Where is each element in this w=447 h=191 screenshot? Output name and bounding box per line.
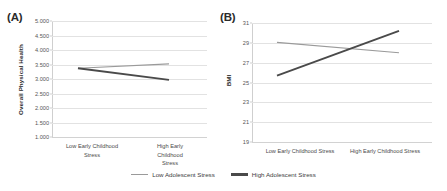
- y-tick-label: 4.000: [35, 47, 49, 53]
- gridline: [52, 137, 207, 138]
- panel-a-series-lines: [52, 21, 207, 137]
- series-line: [78, 68, 169, 80]
- legend-line-icon-high: [231, 173, 248, 175]
- panel-b-y-axis-title: BMI: [225, 66, 232, 96]
- y-tick-label: 1.000: [35, 134, 49, 140]
- y-tick-label: 1.500: [35, 120, 49, 126]
- panel-a-y-axis-title: Overall Physical Health: [17, 39, 24, 121]
- y-tick-label: 25: [243, 80, 249, 86]
- y-tick-label: 21: [243, 119, 249, 125]
- y-tick-label: 29: [243, 40, 249, 46]
- y-tick-label: 5.000: [35, 18, 49, 24]
- panel-a: (A) Overall Physical Health 5.0004.5004.…: [0, 0, 215, 168]
- interaction-figure: (A) Overall Physical Health 5.0004.5004.…: [0, 0, 447, 191]
- legend: Low Adolescent Stress High Adolescent St…: [0, 171, 447, 178]
- x-tick-label: High Early Childhood Stress: [152, 142, 189, 168]
- y-tick-label: 31: [243, 20, 249, 26]
- panel-b-tag: (B): [220, 11, 235, 23]
- y-tick-label: 19: [243, 139, 249, 145]
- series-line: [277, 42, 399, 52]
- y-tick-label: 3.000: [35, 76, 49, 82]
- y-tick-label: 23: [243, 99, 249, 105]
- x-tick-label: High Early Childhood Stress: [350, 147, 420, 155]
- legend-label-high: High Adolescent Stress: [252, 171, 316, 178]
- y-tick-label: 2.500: [35, 91, 49, 97]
- y-tick-label: 4.500: [35, 33, 49, 39]
- y-tick-label: 3.500: [35, 62, 49, 68]
- series-line: [78, 64, 169, 68]
- panel-b-series-lines: [252, 23, 432, 142]
- panel-a-tag: (A): [7, 11, 22, 23]
- panel-b: (B) BMI 31292725232119 Low Early Childho…: [215, 0, 447, 168]
- legend-line-icon-low: [131, 174, 148, 175]
- legend-item-low-adolescent-stress: Low Adolescent Stress: [131, 171, 215, 178]
- y-tick-label: 27: [243, 60, 249, 66]
- panel-a-plot-area: 5.0004.5004.0003.5003.0002.5002.0001.500…: [52, 21, 207, 137]
- gridline: [252, 142, 432, 143]
- panel-b-plot-area: 31292725232119 Low Early Childhood Stres…: [252, 23, 432, 142]
- series-line: [277, 31, 399, 76]
- legend-label-low: Low Adolescent Stress: [152, 171, 215, 178]
- x-tick-label: Low Early Childhood Stress: [66, 142, 118, 159]
- y-tick-label: 2.000: [35, 105, 49, 111]
- x-tick-label: Low Early Childhood Stress: [266, 147, 335, 155]
- legend-item-high-adolescent-stress: High Adolescent Stress: [231, 171, 316, 178]
